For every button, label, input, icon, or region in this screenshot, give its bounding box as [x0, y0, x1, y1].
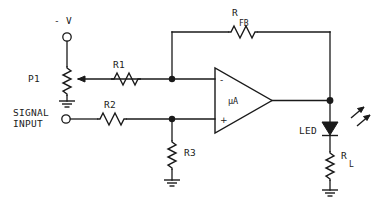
ground-symbol-r3 [164, 180, 180, 186]
rl-body [326, 151, 334, 181]
label-r3: R3 [184, 147, 196, 158]
resistor-rl[interactable] [326, 151, 334, 190]
feedback-network [172, 26, 330, 98]
inverting-input-net [169, 32, 215, 82]
resistor-r3[interactable] [168, 140, 176, 180]
led-anode-triangle [322, 122, 338, 135]
schematic-canvas: - V P1 R1 R2 R3 R FB R L µA - + LED SIGN… [0, 0, 386, 212]
led-d1[interactable] [322, 122, 338, 151]
led-arrow-1 [351, 107, 364, 118]
ground-symbol-p1 [59, 101, 75, 107]
supply-branch [63, 33, 71, 66]
label-rfb-subscript: FB [239, 19, 249, 28]
p1-wiper-arrow [78, 76, 85, 82]
label-opamp-inverting: - [220, 75, 223, 85]
signal-input-branch [62, 115, 97, 123]
p1-resistor-body [63, 66, 71, 96]
supply-terminal-circle[interactable] [63, 33, 71, 41]
label-r1: R1 [113, 59, 125, 70]
circuit-diagram: - V P1 R1 R2 R3 R FB R L µA - + LED SIGN… [0, 0, 386, 212]
ground-symbol-rl [322, 190, 338, 196]
r2-body [97, 113, 127, 125]
noninverting-input-net [169, 116, 215, 140]
led-arrow-2 [357, 115, 370, 126]
label-opamp-noninverting: + [220, 115, 228, 125]
signal-input-terminal-circle[interactable] [62, 115, 70, 123]
label-rfb-main: R [232, 7, 238, 18]
label-rl-subscript: L [349, 160, 354, 169]
r3-body [168, 140, 176, 170]
resistor-r2[interactable] [97, 113, 127, 125]
potentiometer-p1[interactable] [63, 66, 172, 101]
label-rl-main: R [341, 150, 347, 161]
output-net [327, 97, 334, 122]
label-r2: R2 [104, 99, 116, 110]
label-signal-line1: SIGNAL [13, 107, 49, 118]
label-supply: - V [54, 15, 72, 26]
label-signal-line2: INPUT [13, 118, 43, 129]
label-opamp: µA [228, 96, 238, 106]
led-emission-arrows [351, 107, 370, 126]
label-led: LED [299, 125, 317, 136]
label-p1: P1 [28, 73, 40, 84]
